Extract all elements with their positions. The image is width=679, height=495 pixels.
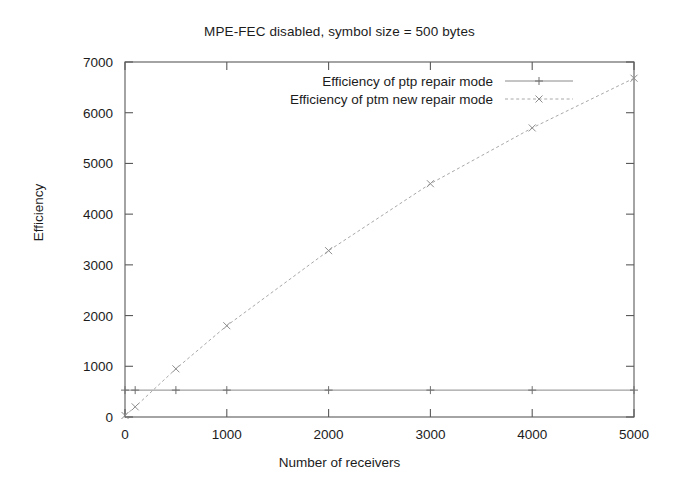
series-2 <box>122 75 638 419</box>
y-tick-label: 3000 <box>83 258 113 273</box>
x-tick-label: 4000 <box>517 427 547 442</box>
x-tick-label: 0 <box>121 427 129 442</box>
chart-figure: MPE-FEC disabled, symbol size = 500 byte… <box>0 0 679 495</box>
y-tick-label: 5000 <box>83 156 113 171</box>
y-tick-label: 1000 <box>83 359 113 374</box>
plot-area: 0100020003000400050006000700001000200030… <box>0 0 679 495</box>
y-tick-label: 6000 <box>83 106 113 121</box>
y-tick-label: 2000 <box>83 309 113 324</box>
legend-label-1: Efficiency of ptp repair mode <box>322 74 493 89</box>
y-axis-label: Efficiency <box>31 153 46 273</box>
x-tick-label: 1000 <box>212 427 242 442</box>
y-tick-label: 4000 <box>83 207 113 222</box>
series-1 <box>121 386 638 394</box>
legend: Efficiency of ptp repair modeEfficiency … <box>290 74 573 107</box>
y-tick-label: 7000 <box>83 55 113 70</box>
x-tick-label: 3000 <box>415 427 445 442</box>
legend-label-2: Efficiency of ptm new repair mode <box>290 92 493 107</box>
x-tick-label: 5000 <box>619 427 649 442</box>
series-line <box>125 78 634 415</box>
x-tick-label: 2000 <box>314 427 344 442</box>
y-tick-label: 0 <box>105 410 113 425</box>
x-axis-label: Number of receivers <box>0 455 679 470</box>
